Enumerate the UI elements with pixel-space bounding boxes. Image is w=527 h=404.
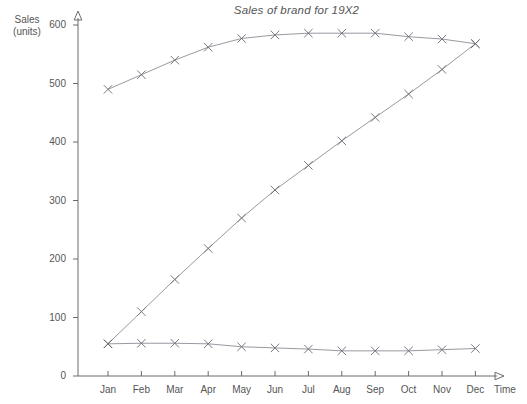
y-tick-label: 0 — [32, 370, 66, 381]
chart-container: Sales of brand for 19X2 Sales (units) 01… — [0, 0, 527, 404]
data-point-marker — [271, 186, 279, 194]
x-tick-label: Aug — [325, 384, 359, 395]
x-axis-ticks — [108, 371, 475, 376]
data-point-marker — [438, 65, 446, 73]
x-tick-label: Oct — [392, 384, 426, 395]
y-tick-label: 500 — [32, 78, 66, 89]
data-point-marker — [104, 85, 112, 93]
y-axis-ticks — [73, 25, 78, 376]
x-axis-label: Time — [494, 384, 516, 395]
x-tick-label: Sep — [358, 384, 392, 395]
y-tick-label: 400 — [32, 136, 66, 147]
data-point-marker — [338, 137, 346, 145]
y-tick-label: 200 — [32, 253, 66, 264]
data-point-marker — [137, 71, 145, 79]
axes-group — [74, 11, 504, 380]
plot-area — [0, 0, 527, 404]
data-point-marker — [171, 275, 179, 283]
data-point-marker — [204, 244, 212, 252]
y-tick-label: 600 — [32, 19, 66, 30]
data-point-marker — [204, 43, 212, 51]
x-tick-label: Feb — [124, 384, 158, 395]
x-tick-label: Apr — [191, 384, 225, 395]
x-tick-label: Nov — [425, 384, 459, 395]
data-point-marker — [404, 90, 412, 98]
x-tick-label: Dec — [458, 384, 492, 395]
series-group — [104, 29, 480, 355]
x-tick-label: Mar — [158, 384, 192, 395]
data-series — [104, 29, 480, 94]
x-tick-label: Jul — [291, 384, 325, 395]
x-tick-label: Jun — [258, 384, 292, 395]
series-line — [108, 33, 475, 89]
data-point-marker — [304, 161, 312, 169]
series-line — [108, 44, 475, 344]
data-series — [104, 40, 480, 349]
data-point-marker — [237, 214, 245, 222]
data-series — [104, 339, 480, 355]
y-tick-label: 300 — [32, 195, 66, 206]
series-line — [108, 343, 475, 351]
x-tick-label: May — [225, 384, 259, 395]
y-tick-label: 100 — [32, 312, 66, 323]
data-point-marker — [171, 56, 179, 64]
x-tick-label: Jan — [91, 384, 125, 395]
data-point-marker — [371, 113, 379, 121]
data-point-marker — [137, 307, 145, 315]
